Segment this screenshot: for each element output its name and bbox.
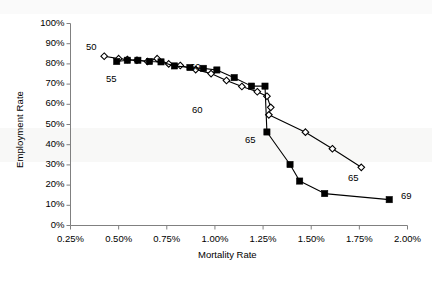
x-tick-label: 2.00% bbox=[381, 233, 432, 244]
x-tick-label: 1.50% bbox=[284, 233, 338, 244]
x-tick-label: 0.75% bbox=[140, 233, 194, 244]
x-tick-label: 1.25% bbox=[236, 233, 290, 244]
y-tick-label: 90% bbox=[45, 37, 64, 48]
x-tick-label: 0.25% bbox=[44, 233, 98, 244]
x-axis-title: Mortality Rate bbox=[198, 249, 257, 260]
x-tick-label: 0.50% bbox=[92, 233, 146, 244]
x-tick-label: 1.00% bbox=[188, 233, 242, 244]
y-tick-label: 60% bbox=[45, 97, 64, 108]
data-point-label: 60 bbox=[192, 104, 203, 115]
data-point-label: 65 bbox=[245, 134, 256, 145]
data-point-label: 69 bbox=[401, 190, 412, 201]
y-tick-label: 70% bbox=[45, 77, 64, 88]
x-tick-label: 1.75% bbox=[332, 233, 386, 244]
y-tick-label: 20% bbox=[45, 178, 64, 189]
data-point-label: 60 bbox=[190, 61, 201, 72]
y-tick-label: 30% bbox=[45, 158, 64, 169]
y-tick-label: 10% bbox=[45, 198, 64, 209]
y-axis-title-text: Employment Rate bbox=[14, 91, 25, 168]
y-tick-label: 40% bbox=[45, 138, 64, 149]
axes-group bbox=[67, 24, 408, 230]
y-tick-label: 50% bbox=[45, 118, 64, 129]
y-tick-label: 0% bbox=[51, 219, 65, 230]
data-point-label: 55 bbox=[106, 73, 117, 84]
y-tick-label: 100% bbox=[40, 17, 64, 28]
y-tick-label: 80% bbox=[45, 57, 64, 68]
data-point-label: 65 bbox=[348, 172, 359, 183]
chart-root: Employment Rate Mortality Rate 0%10%20%3… bbox=[0, 0, 432, 297]
data-point-label: 50 bbox=[86, 41, 97, 52]
